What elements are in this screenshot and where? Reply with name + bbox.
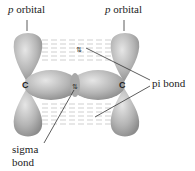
carbon-right-label: C — [119, 80, 126, 91]
pi-bond-diagram: ⇅ ⇅ p orbital p orbital pi bond sigma bo… — [0, 0, 195, 171]
svg-text:⇅: ⇅ — [72, 83, 78, 91]
sigma-bond-label-line2: bond — [12, 157, 34, 168]
sigma-lobe-left — [24, 70, 78, 100]
p-orbital-left-label: p orbital — [8, 4, 45, 15]
sigma-bond-label-line1: sigma — [12, 144, 38, 155]
orbital-text: orbital — [111, 3, 142, 15]
pi-bond-label: pi bond — [152, 78, 185, 89]
svg-text:⇅: ⇅ — [76, 46, 82, 54]
orbital-text: orbital — [14, 3, 45, 15]
carbon-left-label: C — [22, 80, 29, 91]
p-orbital-right-label: p orbital — [105, 4, 142, 15]
pi-overlap-bottom — [42, 104, 112, 124]
